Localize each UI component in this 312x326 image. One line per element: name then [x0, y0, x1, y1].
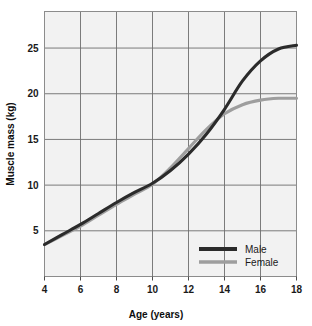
x-tick-label-18: 18: [291, 284, 303, 295]
muscle-mass-line-chart: 510152025 4681012141618 Age (years) Musc…: [0, 0, 312, 326]
chart-canvas: 510152025 4681012141618 Age (years) Musc…: [0, 0, 312, 326]
x-tick-label-8: 8: [114, 284, 120, 295]
x-tick-label-4: 4: [42, 284, 48, 295]
y-tick-label-15: 15: [27, 134, 39, 145]
x-axis-title: Age (years): [129, 309, 183, 320]
legend-label-male: Male: [245, 244, 267, 255]
y-tick-label-25: 25: [27, 43, 39, 54]
x-tick-label-12: 12: [183, 284, 195, 295]
x-tick-label-6: 6: [78, 284, 84, 295]
x-tick-label-10: 10: [147, 284, 159, 295]
plot-area-background: [44, 11, 297, 277]
x-tick-label-14: 14: [219, 284, 231, 295]
y-tick-label-10: 10: [27, 180, 39, 191]
y-axis-title: Muscle mass (kg): [5, 102, 16, 185]
y-tick-label-20: 20: [27, 88, 39, 99]
y-tick-label-5: 5: [33, 225, 39, 236]
legend-label-female: Female: [245, 257, 279, 268]
x-tick-label-16: 16: [255, 284, 267, 295]
